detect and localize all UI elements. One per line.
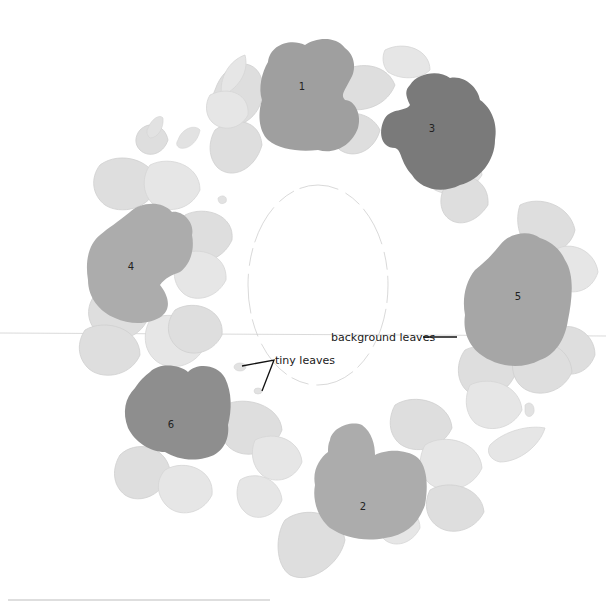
flower-4-shape xyxy=(87,204,193,323)
annotation-background-leaves: background leaves xyxy=(331,331,457,344)
flower-3-shape xyxy=(381,73,496,189)
wreath-diagram: 1 3 4 5 6 2 background leaves tiny leave… xyxy=(0,0,606,607)
tiny-leaves xyxy=(234,363,262,394)
tiny-leaf xyxy=(234,363,246,371)
flower-1-label: 1 xyxy=(299,81,305,92)
flower-2-label: 2 xyxy=(360,501,366,512)
tiny-leaves-callout-line xyxy=(242,360,274,391)
flower-3: 3 xyxy=(381,73,496,189)
flower-4-label: 4 xyxy=(128,261,134,272)
flower-4: 4 xyxy=(87,204,193,323)
flower-6-shape xyxy=(125,366,231,460)
tiny-leaves-label: tiny leaves xyxy=(275,354,335,367)
flower-5: 5 xyxy=(464,233,572,366)
flower-5-label: 5 xyxy=(515,291,521,302)
annotation-tiny-leaves: tiny leaves xyxy=(242,354,335,391)
background-leaves-label: background leaves xyxy=(331,331,435,344)
flower-6: 6 xyxy=(125,366,231,460)
flower-3-label: 3 xyxy=(429,123,435,134)
flower-6-label: 6 xyxy=(168,419,174,430)
tiny-leaf xyxy=(254,388,262,394)
